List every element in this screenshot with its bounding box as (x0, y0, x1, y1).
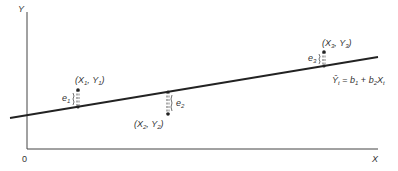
x-axis-label: X (371, 154, 379, 164)
brace-icon (73, 93, 74, 105)
residual-label-3: e3 (308, 53, 317, 64)
fitted-point-1 (77, 106, 80, 109)
observed-point-2 (166, 112, 170, 116)
point-label-2: (X2, Y2) (134, 119, 164, 130)
residual-label-1: e1 (62, 93, 70, 104)
point-label-1: (X1, Y1) (75, 75, 105, 86)
residual-label-2: e2 (176, 98, 185, 109)
fitted-point-3 (323, 65, 326, 68)
brace-icon (171, 95, 172, 111)
fitted-point-2 (167, 91, 170, 94)
observed-point-1 (76, 88, 80, 92)
y-axis-label: Y (18, 4, 25, 14)
observed-point-3 (322, 50, 326, 54)
point-label-3: (X3, Y3) (322, 38, 352, 49)
regression-diagram: Y 0 X e1 (X1, Y1) e2 (X2, Y2) e3 (X3, Y3… (0, 0, 398, 171)
regression-equation: Ŷt = b1 + b2Xt (332, 75, 385, 86)
origin-label: 0 (22, 154, 27, 164)
brace-icon (319, 54, 320, 64)
